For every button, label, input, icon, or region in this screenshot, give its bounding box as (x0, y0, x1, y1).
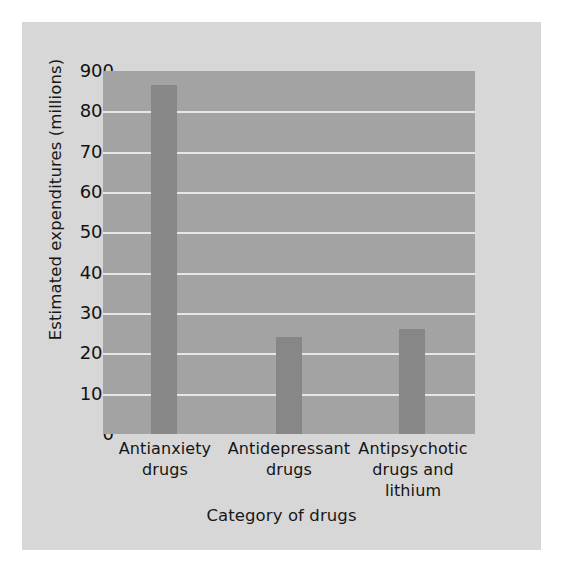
x-axis-tick-label-line: drugs and (339, 459, 487, 480)
x-axis-tick-label: Antipsychotic drugs and lithium (339, 438, 487, 501)
x-axis-tick-label-line: lithium (339, 480, 487, 501)
chart-figure: Estimated expenditures (millions) 900 80… (22, 22, 541, 550)
plot-area (103, 71, 475, 434)
x-axis-tick-labels: Antianxiety drugs Antidepressant drugs A… (103, 438, 475, 508)
bar[interactable] (399, 329, 425, 434)
bar[interactable] (276, 337, 302, 434)
x-axis-title: Category of drugs (22, 506, 541, 525)
bar[interactable] (151, 85, 177, 434)
x-axis-tick-label-line: Antipsychotic (339, 438, 487, 459)
